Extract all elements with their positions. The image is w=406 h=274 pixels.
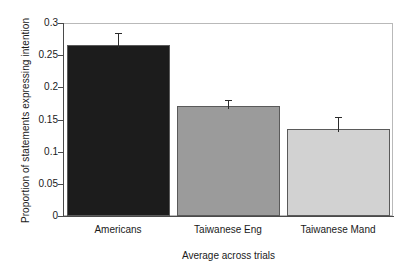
- bar-taiwanese-mand: [287, 129, 390, 216]
- bar-chart-figure: Proportion of statements expressing inte…: [0, 0, 406, 274]
- error-bar-cap: [225, 100, 232, 101]
- error-bar-cap: [335, 117, 342, 118]
- error-bar-line: [228, 100, 229, 109]
- x-axis-category-label: Taiwanese Mand: [283, 224, 393, 235]
- error-bar-line: [338, 117, 339, 132]
- bar-americans: [67, 45, 170, 216]
- bar-taiwanese-eng: [177, 106, 280, 216]
- x-axis-category-label: Taiwanese Eng: [173, 224, 283, 235]
- x-axis-category-label: Americans: [63, 224, 173, 235]
- error-bar-cap: [115, 33, 122, 34]
- error-bar-line: [118, 33, 119, 48]
- x-axis-title: Average across trials: [63, 250, 394, 261]
